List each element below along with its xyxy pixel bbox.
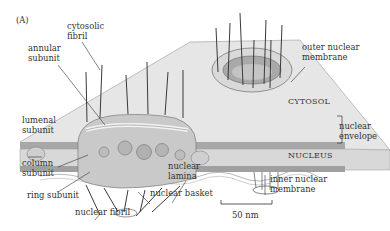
- label-scale-bar: 50 nm: [232, 211, 259, 221]
- scale-bar: [221, 200, 272, 204]
- label-cytosolic-fibril: cytosolic fibril: [67, 22, 104, 41]
- panel-label: (A): [16, 16, 29, 26]
- label-nuclear-envelope: nuclear envelope: [339, 122, 377, 141]
- label-nuclear-basket: nuclear basket: [150, 189, 213, 199]
- label-nucleus: NUCLEUS: [288, 151, 333, 161]
- label-inner-nuclear-membrane: inner nuclear membrane: [270, 175, 327, 194]
- label-nuclear-fibril: nuclear fibril: [75, 208, 130, 218]
- label-outer-nuclear-membrane: outer nuclear membrane: [302, 43, 360, 62]
- label-annular-subunit: annular subunit: [28, 44, 61, 63]
- label-cytosol: CYTOSOL: [288, 97, 330, 107]
- label-lumenal-subunit: lumenal subunit: [22, 116, 56, 135]
- label-nuclear-lamina: nuclear lamina: [168, 162, 200, 181]
- label-ring-subunit: ring subunit: [27, 191, 79, 201]
- label-column-subunit: column subunit: [22, 159, 54, 178]
